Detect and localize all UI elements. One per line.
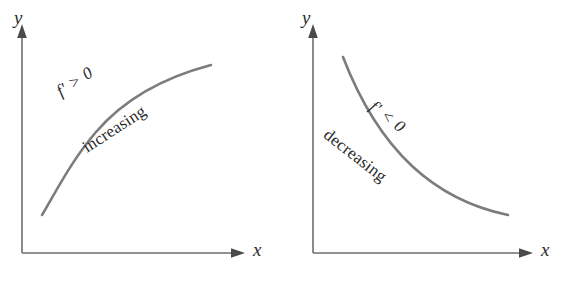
decreasing-curve: [343, 57, 508, 215]
y-axis-label: y: [14, 8, 22, 27]
figure-root: y x f' > 0 increasing y x f' < 0 decreas…: [0, 0, 576, 286]
y-axis-label: y: [302, 8, 310, 27]
x-axis-label: x: [541, 240, 549, 259]
x-axis-arrowhead-icon: [231, 248, 245, 258]
panel-increasing: y x f' > 0 increasing: [0, 0, 288, 286]
panel-decreasing: y x f' < 0 decreasing: [288, 0, 576, 286]
panel-increasing-graph: [0, 0, 288, 286]
x-axis-arrowhead-icon: [519, 248, 533, 258]
x-axis-label: x: [253, 240, 261, 259]
